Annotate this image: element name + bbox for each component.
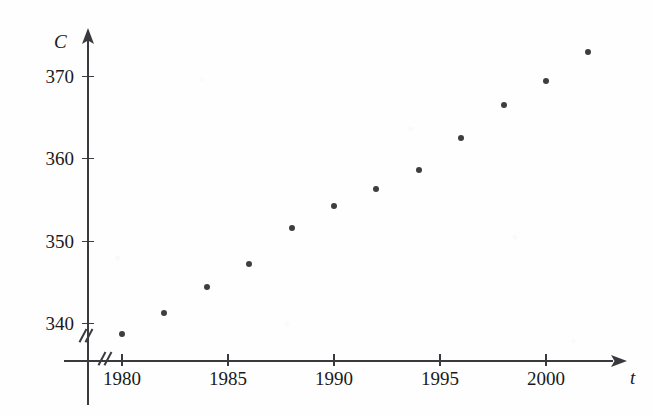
- data-point: [373, 186, 379, 192]
- y-axis-line: [87, 40, 89, 405]
- x-axis-break-icon: [99, 351, 117, 369]
- y-tick-label-340: 340: [24, 314, 74, 333]
- x-axis-arrowhead: [611, 354, 627, 368]
- data-point: [246, 261, 252, 267]
- x-tick-1985: [227, 354, 229, 366]
- scan-grain-overlay: [0, 0, 652, 416]
- x-tick-label-1980: 1980: [87, 369, 157, 388]
- y-tick-label-350: 350: [24, 232, 74, 251]
- data-point: [543, 78, 549, 84]
- x-tick-label-1990: 1990: [299, 369, 369, 388]
- x-tick-1980: [121, 354, 123, 366]
- x-tick-1995: [439, 354, 441, 366]
- y-tick-label-360: 360: [24, 149, 74, 168]
- data-point: [331, 203, 337, 209]
- y-tick-label-370: 370: [24, 67, 74, 86]
- y-tick-360: [82, 158, 94, 160]
- y-axis-label: C: [54, 32, 67, 51]
- y-tick-350: [82, 241, 94, 243]
- y-tick-340: [82, 323, 94, 325]
- y-axis-break-icon: [80, 328, 98, 346]
- data-point: [289, 225, 295, 231]
- y-tick-370: [82, 76, 94, 78]
- data-point: [119, 331, 125, 337]
- x-tick-label-2000: 2000: [511, 369, 581, 388]
- data-point: [501, 102, 507, 108]
- x-tick-label-1985: 1985: [193, 369, 263, 388]
- data-point: [204, 284, 210, 290]
- data-point: [585, 49, 591, 55]
- data-point: [416, 167, 422, 173]
- x-tick-2000: [545, 354, 547, 366]
- x-tick-label-1995: 1995: [405, 369, 475, 388]
- data-point: [458, 135, 464, 141]
- y-axis-arrowhead: [81, 28, 95, 44]
- data-point: [161, 310, 167, 316]
- x-axis-label: t: [630, 368, 635, 387]
- x-tick-1990: [333, 354, 335, 366]
- x-axis-line: [64, 360, 613, 362]
- scatter-plot-figure: C t 370 360 350 340 1980 1985 1990 1995 …: [0, 0, 652, 416]
